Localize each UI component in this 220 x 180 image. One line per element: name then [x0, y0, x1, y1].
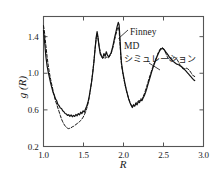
x-axis-label: R [120, 158, 127, 170]
curve-md-simulation [44, 22, 195, 116]
x-tick-label: 2.5 [158, 150, 169, 160]
annotation-md: MD [124, 42, 139, 52]
plot-svg [0, 0, 220, 180]
plot-frame [44, 17, 204, 147]
x-tick-label: 3.0 [198, 150, 209, 160]
y-tick-label: 1.4 [12, 32, 39, 42]
figure-container: 1.01.52.02.53.0 0.20.61.01.4 R g (R) Fin… [0, 0, 220, 180]
y-axis-label: g (R) [16, 57, 28, 117]
y-tick-label: 0.2 [12, 142, 39, 152]
annotation-simulation: シミュレーション [124, 55, 196, 64]
curve-finney [44, 26, 195, 129]
x-tick-label: 1.5 [78, 150, 89, 160]
axis-ticks [44, 17, 204, 147]
x-tick-label: 1.0 [38, 150, 49, 160]
annotation-finney: Finney [130, 28, 156, 38]
